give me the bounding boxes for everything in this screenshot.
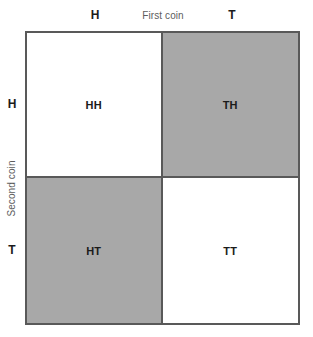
column-axis-title: First coin [119,10,207,21]
column-header-t: T [217,8,247,22]
sample-space-grid: HH TH HT TT [25,31,300,325]
row-header-h: H [2,97,22,111]
outcome-cell-label: HH [86,99,102,111]
row-header-t: T [2,243,22,257]
outcome-cell-label: TT [223,245,237,257]
outcome-cell-tt: TT [163,178,299,323]
row-axis-title: Second coin [6,149,17,229]
column-header-h: H [80,8,110,22]
sample-space-figure: First coin H T Second coin H T HH TH HT … [0,0,313,337]
outcome-cell-hh: HH [27,33,163,178]
outcome-cell-label: TH [223,99,238,111]
outcome-cell-th: TH [163,33,299,178]
outcome-cell-label: HT [86,245,101,257]
outcome-cell-ht: HT [27,178,163,323]
